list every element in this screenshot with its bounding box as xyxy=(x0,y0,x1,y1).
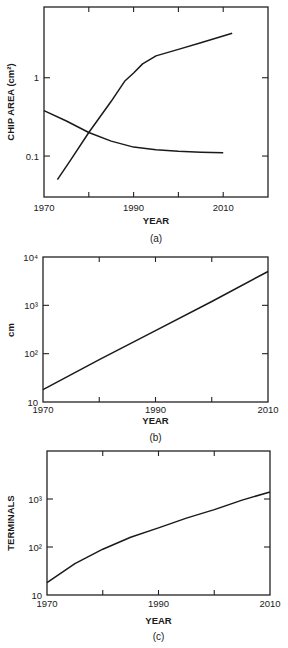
plot-frame xyxy=(44,7,268,197)
chart-b: 1970199020101010²10³10⁴YEARcm(b) xyxy=(5,252,279,444)
panel-caption: (a) xyxy=(150,233,162,244)
y-tick-label: 10³ xyxy=(24,300,38,311)
x-tick-label: 2010 xyxy=(213,202,234,213)
y-tick-label: 10 xyxy=(31,590,42,601)
x-axis-label: YEAR xyxy=(142,415,169,426)
y-tick-label: 10² xyxy=(28,542,42,553)
y-axis-label: TERMINALS xyxy=(5,495,16,550)
x-tick-label: 1970 xyxy=(33,202,54,213)
y-tick-label: 10⁴ xyxy=(23,252,38,263)
panel-caption: (b) xyxy=(149,432,161,443)
x-tick-label: 2010 xyxy=(257,404,278,415)
x-axis-label: YEAR xyxy=(145,615,172,626)
y-tick-label: 10³ xyxy=(28,494,42,505)
y-axis-label: CHIP AREA (cm²) xyxy=(5,63,16,140)
x-axis-label: YEAR xyxy=(143,215,170,226)
series-line xyxy=(43,272,268,390)
y-axis-label: cm xyxy=(5,323,16,337)
figure-canvas: 1970199020100.11YEARCHIP AREA (cm²)(a)19… xyxy=(0,0,288,648)
chart-c: 1970199020101010²10³YEARTERMINALS(c) xyxy=(5,451,281,642)
y-tick-label: 0.1 xyxy=(26,151,39,162)
plot-frame xyxy=(47,451,270,595)
y-tick-label: 1 xyxy=(34,72,39,83)
y-tick-label: 10 xyxy=(27,397,38,408)
x-tick-label: 2010 xyxy=(259,598,280,609)
series-line xyxy=(44,111,223,153)
y-tick-label: 10² xyxy=(24,348,38,359)
series-line xyxy=(47,492,270,583)
series-line xyxy=(57,33,232,179)
plot-frame xyxy=(43,257,268,402)
chart-a: 1970199020100.11YEARCHIP AREA (cm²)(a) xyxy=(5,7,268,244)
x-tick-label: 1990 xyxy=(123,202,144,213)
x-tick-label: 1990 xyxy=(148,598,169,609)
x-tick-label: 1990 xyxy=(145,404,166,415)
panel-caption: (c) xyxy=(153,631,165,642)
